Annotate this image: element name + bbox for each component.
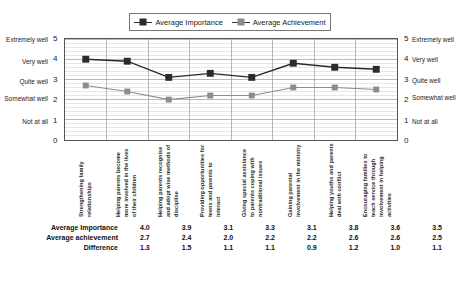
- legend-label-achievement: Average Achievement: [253, 18, 326, 27]
- x-axis-label-text-2: Helping parents recognise and adopt wise…: [156, 143, 180, 217]
- y-axis-left-label-4: Very well: [4, 58, 48, 65]
- data-point-marker: [332, 85, 338, 91]
- table-cell: 2.6: [333, 232, 375, 242]
- x-axis-label-0: Strengthening family relationships: [64, 143, 106, 217]
- table-cell: 3.1: [291, 222, 333, 232]
- x-axis-label-7: Encouraging families to teach service th…: [356, 143, 398, 217]
- table-row-label: Difference: [0, 242, 124, 252]
- table-cell: 3.5: [416, 222, 458, 232]
- x-axis-label-6: Helping youths and parents deal with con…: [315, 143, 357, 217]
- data-point-marker: [248, 74, 255, 81]
- data-point-marker: [165, 74, 172, 81]
- table-row-label: Average achievement: [0, 232, 124, 242]
- legend-line-importance: [134, 22, 152, 23]
- table-cell: 2.4: [166, 232, 208, 242]
- x-axis-label-text-7: Encouraging families to teach service th…: [361, 143, 393, 217]
- x-axis-label-2: Helping parents recognise and adopt wise…: [148, 143, 190, 217]
- data-table: Average Importance4.03.93.13.33.13.83.63…: [0, 222, 458, 252]
- legend-item-average-achievement: Average Achievement: [232, 18, 326, 27]
- data-point-marker: [249, 93, 255, 99]
- y-axis-left-tick-1: 1: [53, 116, 57, 125]
- y-axis-left-tick-0: 0: [53, 136, 57, 145]
- x-axis-label-text-4: Giving special assistance to parents cop…: [240, 143, 264, 217]
- summary-table: Average Importance4.03.93.13.33.13.83.63…: [0, 222, 458, 252]
- y-axis-left-label-3: Quite well: [4, 78, 48, 85]
- y-axis-left-tick-3: 3: [53, 75, 57, 84]
- data-point-marker: [166, 97, 172, 103]
- chart-page: Average Importance Average Achievement E…: [0, 0, 458, 284]
- table-cell: 3.6: [375, 222, 417, 232]
- x-axis-label-4: Giving special assistance to parents cop…: [231, 143, 273, 217]
- table-cell: 3.8: [333, 222, 375, 232]
- data-point-marker: [83, 83, 89, 89]
- table-cell: 1.3: [124, 242, 166, 252]
- table-row-label: Average Importance: [0, 222, 124, 232]
- table-cell: 4.0: [124, 222, 166, 232]
- table-cell: 2.7: [124, 232, 166, 242]
- data-point-marker: [373, 66, 380, 73]
- table-cell: 2.0: [208, 232, 250, 242]
- table-row: Difference1.31.51.11.10.91.21.01.1: [0, 242, 458, 252]
- y-axis-right-tick-4: 4: [404, 54, 408, 63]
- data-point-marker: [207, 70, 214, 77]
- y-axis-right-tick-1: 1: [404, 116, 408, 125]
- table-cell: 1.2: [333, 242, 375, 252]
- table-cell: 1.1: [249, 242, 291, 252]
- x-axis-label-text-5: Gaining parental involvement in the mini…: [286, 143, 302, 217]
- x-axis-label-text-3: Providing opportunities for teens and pa…: [198, 143, 222, 217]
- data-point-marker: [290, 85, 296, 91]
- table-cell: 1.0: [375, 242, 417, 252]
- table-cell: 0.9: [291, 242, 333, 252]
- y-axis-left-label-1: Not at all: [4, 118, 48, 125]
- summary-table-body: Average Importance4.03.93.13.33.13.83.63…: [0, 222, 458, 252]
- y-axis-right-tick-5: 5: [404, 34, 408, 43]
- y-axis-left-label-5: Extremely well: [4, 36, 48, 43]
- y-axis-right-tick-0: 0: [404, 136, 408, 145]
- data-point-marker: [124, 58, 131, 65]
- table-cell: 2.6: [375, 232, 417, 242]
- y-axis-left-label-2: Somewhat well: [4, 95, 48, 102]
- y-axis-left-tick-4: 4: [53, 54, 57, 63]
- x-axis-label-5: Gaining parental involvement in the mini…: [273, 143, 315, 217]
- y-axis-right-label-3: Quite well: [412, 77, 458, 84]
- y-axis-right-label-2: Somewhat well: [412, 94, 458, 101]
- legend-line-achievement: [232, 22, 250, 23]
- table-row: Average Importance4.03.93.13.33.13.83.63…: [0, 222, 458, 232]
- data-point-marker: [82, 56, 89, 63]
- data-point-marker: [373, 87, 379, 93]
- y-axis-right-label-5: Extremely well: [412, 36, 458, 43]
- legend-item-average-importance: Average Importance: [134, 18, 222, 27]
- x-axis-label-text-0: Strengthening family relationships: [77, 143, 93, 217]
- y-axis-right-label-1: Not at all: [412, 118, 458, 125]
- x-axis-category-labels: Strengthening family relationships Helpi…: [64, 143, 398, 217]
- x-axis-label-text-1: Helping parents become more involved in …: [114, 143, 138, 217]
- chart-plot-area: [64, 38, 398, 141]
- table-cell: 2.5: [416, 232, 458, 242]
- x-axis-label-3: Providing opportunities for teens and pa…: [189, 143, 231, 217]
- data-point-marker: [124, 89, 130, 95]
- legend-marker-importance: [140, 19, 147, 26]
- table-cell: 3.9: [166, 222, 208, 232]
- table-cell: 3.3: [249, 222, 291, 232]
- x-axis-label-1: Helping parents become more involved in …: [106, 143, 148, 217]
- y-axis-right-label-4: Very well: [412, 56, 458, 63]
- table-cell: 1.5: [166, 242, 208, 252]
- data-point-marker: [290, 60, 297, 67]
- y-axis-right-tick-3: 3: [404, 75, 408, 84]
- chart-legend: Average Importance Average Achievement: [129, 13, 331, 31]
- legend-marker-achievement: [237, 19, 244, 26]
- table-cell: 2.2: [249, 232, 291, 242]
- y-axis-right-tick-2: 2: [404, 95, 408, 104]
- data-point-marker: [207, 93, 213, 99]
- x-axis-label-text-6: Helping youths and parents deal with con…: [327, 143, 343, 217]
- table-cell: 2.2: [291, 232, 333, 242]
- legend-label-importance: Average Importance: [155, 18, 222, 27]
- y-axis-left-tick-2: 2: [53, 95, 57, 104]
- table-row: Average achievement2.72.42.02.22.22.62.6…: [0, 232, 458, 242]
- data-point-marker: [331, 64, 338, 71]
- table-cell: 1.1: [208, 242, 250, 252]
- table-cell: 1.1: [416, 242, 458, 252]
- chart-canvas: [65, 39, 397, 140]
- y-axis-left-tick-5: 5: [53, 34, 57, 43]
- table-cell: 3.1: [208, 222, 250, 232]
